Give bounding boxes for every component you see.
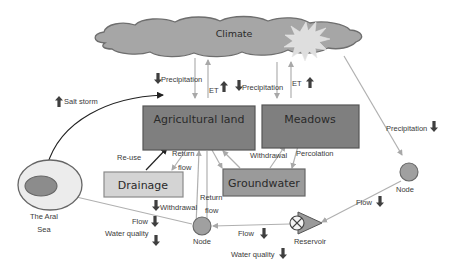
flow-right-indicator: Flow <box>356 196 384 207</box>
withdrawal-node-indicator: Withdrawal <box>152 200 197 212</box>
precip-meadows-indicator: Precipitation <box>235 80 283 92</box>
precip-node-label: Precipitation <box>386 124 427 133</box>
aral-sea[interactable]: The Aral Sea <box>18 160 82 234</box>
et-meadows-label: ET <box>292 79 302 88</box>
salt-storm-indicator: Salt storm <box>55 96 98 107</box>
flow-right-label: Flow <box>356 198 372 207</box>
return-flow-drainage-label-2: flow <box>178 163 192 172</box>
arrow-down-icon <box>151 216 159 227</box>
flow-mid-indicator: Flow <box>238 228 268 239</box>
re-use-label: Re-use <box>117 153 141 162</box>
et-agri-indicator: ET <box>209 81 228 95</box>
precip-agri-indicator: Precipitation <box>154 73 202 84</box>
withdrawal-gw-label: Withdrawal <box>250 151 287 160</box>
node-right-label: Node <box>396 185 414 194</box>
water-quality-mid-label: Water quality <box>231 250 275 259</box>
arrow-down-icon <box>279 248 287 259</box>
arrow-down-icon <box>152 200 160 211</box>
flow-mid-label: Flow <box>238 229 254 238</box>
aral-sea-inner <box>25 176 57 196</box>
agri-groundwater-line <box>212 150 222 168</box>
arrow-down-icon <box>376 196 384 207</box>
drainage-box[interactable]: Drainage <box>104 172 183 197</box>
node-left[interactable]: Node <box>193 217 211 246</box>
meadows-label: Meadows <box>284 113 336 126</box>
precip-node-indicator: Precipitation <box>386 121 438 133</box>
reservoir[interactable]: Reservoir <box>290 212 327 246</box>
return-flow-drainage-label-1: Return <box>172 149 195 158</box>
water-quality-left-label: Water quality <box>105 229 149 238</box>
groundwater-label: Groundwater <box>228 177 300 190</box>
percolation-label: Percolation <box>296 149 334 158</box>
arrow-up-icon <box>220 81 228 92</box>
arrow-down-icon <box>152 235 160 246</box>
return-flow-node-label-2: flow <box>205 206 219 215</box>
groundwater-box[interactable]: Groundwater <box>223 169 305 196</box>
meadows-box[interactable]: Meadows <box>262 105 359 148</box>
groundwater-agri-line <box>223 151 240 168</box>
climate-label: Climate <box>216 28 253 39</box>
node-right[interactable]: Node <box>396 163 418 194</box>
withdrawal-node-agri-line <box>196 151 199 226</box>
arrow-down-icon <box>260 228 268 239</box>
precip-meadows-label: Precipitation <box>242 83 283 92</box>
arrow-up-icon <box>55 96 63 107</box>
arrow-up-icon <box>306 77 314 88</box>
drainage-label: Drainage <box>118 179 168 192</box>
flow-left-indicator: Flow <box>132 216 159 227</box>
reservoir-label: Reservoir <box>294 237 327 246</box>
climate-cloud: Climate <box>95 17 362 62</box>
et-meadows-indicator: ET <box>292 77 314 88</box>
salt-storm-label: Salt storm <box>64 97 98 106</box>
withdrawal-node-label: Withdrawal <box>160 203 197 212</box>
agricultural-land-label: Agricultural land <box>153 113 244 126</box>
water-quality-left-indicator: Water quality <box>105 229 160 246</box>
aral-sea-label-2: Sea <box>37 225 51 234</box>
et-agri-label: ET <box>209 86 219 95</box>
agricultural-land-box[interactable]: Agricultural land <box>143 106 255 150</box>
return-flow-node-label-1: Return <box>200 193 223 202</box>
water-quality-mid-indicator: Water quality <box>231 248 287 259</box>
precip-agri-label: Precipitation <box>161 75 202 84</box>
diagram-canvas: Climate Agr <box>0 0 454 272</box>
node-left-label: Node <box>193 237 211 246</box>
arrow-down-icon <box>430 121 438 132</box>
flow-mid-line <box>213 224 290 226</box>
re-use-arrow <box>146 148 167 170</box>
flow-left-label: Flow <box>132 217 148 226</box>
aral-sea-label-1: The Aral <box>30 212 58 221</box>
